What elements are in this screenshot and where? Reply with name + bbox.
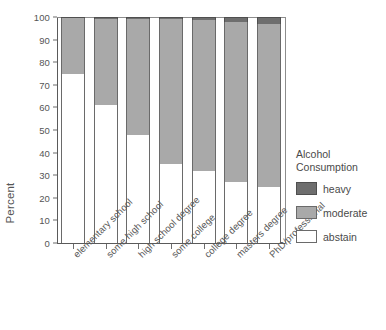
y-tick-label: 90 (10, 34, 50, 45)
bar-segment-moderate[interactable] (126, 19, 150, 134)
bar-segment-abstain[interactable] (192, 171, 216, 243)
x-axis-ticks (57, 244, 285, 250)
y-axis-ticks: 1009080706050403020100 (0, 0, 60, 330)
legend-item-moderate[interactable]: moderate (296, 206, 384, 219)
bar-some-college[interactable] (159, 17, 183, 243)
legend-items: heavymoderateabstain (296, 182, 384, 243)
y-tick-label: 50 (10, 125, 50, 136)
legend-swatch-moderate (296, 206, 317, 219)
bar-some-high-school[interactable] (94, 17, 118, 243)
y-tick-label: 0 (10, 238, 50, 249)
y-tick-label: 80 (10, 57, 50, 68)
bar-segment-abstain[interactable] (257, 187, 281, 244)
bar-segment-abstain[interactable] (159, 164, 183, 243)
bar-segment-moderate[interactable] (257, 24, 281, 187)
bar-segment-moderate[interactable] (159, 19, 183, 164)
y-tick-label: 60 (10, 102, 50, 113)
bar-segment-abstain[interactable] (61, 74, 85, 244)
legend-item-abstain[interactable]: abstain (296, 230, 384, 243)
x-tick-mark (236, 244, 237, 249)
bar-segment-abstain[interactable] (94, 105, 118, 243)
bar-segment-moderate[interactable] (224, 22, 248, 182)
legend-title-line1: Alcohol (296, 148, 384, 161)
legend-label-abstain: abstain (323, 231, 357, 243)
bar-segment-moderate[interactable] (61, 18, 85, 73)
legend-label-moderate: moderate (323, 207, 367, 219)
legend: Alcohol Consumption heavymoderateabstain (296, 148, 384, 254)
bar-segment-moderate[interactable] (94, 19, 118, 106)
y-tick-label: 40 (10, 147, 50, 158)
x-tick-mark (106, 244, 107, 249)
bar-phd-professional[interactable] (257, 17, 281, 243)
legend-swatch-abstain (296, 230, 317, 243)
x-tick-mark (171, 244, 172, 249)
legend-title-line2: Consumption (296, 161, 384, 174)
bar-college-degree[interactable] (192, 17, 216, 243)
x-tick-mark (73, 244, 74, 249)
stacked-bar-chart: Percent 1009080706050403020100 elementar… (0, 0, 386, 330)
bar-segment-abstain[interactable] (224, 182, 248, 243)
x-tick-mark (269, 244, 270, 249)
legend-item-heavy[interactable]: heavy (296, 182, 384, 195)
x-tick-mark (204, 244, 205, 249)
legend-label-heavy: heavy (323, 183, 351, 195)
bar-segment-moderate[interactable] (192, 20, 216, 170)
y-tick-label: 30 (10, 170, 50, 181)
bar-segment-heavy[interactable] (257, 17, 281, 24)
y-tick-label: 100 (10, 12, 50, 23)
y-tick-label: 10 (10, 215, 50, 226)
bar-high-school-degree[interactable] (126, 17, 150, 243)
bar-segment-abstain[interactable] (126, 135, 150, 243)
x-tick-mark (138, 244, 139, 249)
legend-swatch-heavy (296, 182, 317, 195)
bar-elementary-school[interactable] (61, 17, 85, 243)
plot-right-rule (285, 17, 286, 244)
y-tick-label: 70 (10, 79, 50, 90)
legend-title: Alcohol Consumption (296, 148, 384, 173)
y-tick-label: 20 (10, 192, 50, 203)
bar-group (57, 17, 285, 243)
bar-masters-degree[interactable] (224, 17, 248, 243)
